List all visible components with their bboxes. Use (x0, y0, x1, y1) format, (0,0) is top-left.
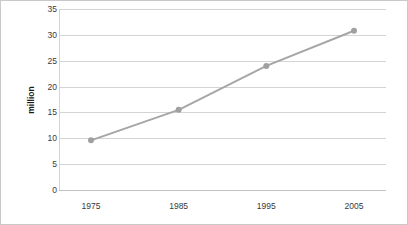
data-point-marker (351, 28, 357, 34)
y-tick-label: 30 (17, 30, 57, 40)
x-tick-label: 1975 (61, 201, 121, 211)
series-line (91, 31, 354, 141)
y-tick-label: 0 (17, 185, 57, 195)
chart-figure: million 05101520253035 1975198519952005 (0, 0, 408, 225)
x-tick-label: 1985 (149, 201, 209, 211)
data-point-marker (176, 107, 182, 113)
plot-area (59, 9, 386, 190)
line-series (59, 9, 386, 190)
y-tick-label: 25 (17, 56, 57, 66)
y-tick-label: 35 (17, 4, 57, 14)
y-tick-label: 5 (17, 159, 57, 169)
y-tick-label: 10 (17, 133, 57, 143)
data-point-marker (263, 63, 269, 69)
x-tick-label: 2005 (324, 201, 384, 211)
gridline (59, 190, 386, 191)
y-axis-title: million (26, 70, 40, 130)
x-tick-label: 1995 (236, 201, 296, 211)
data-point-marker (88, 137, 94, 143)
